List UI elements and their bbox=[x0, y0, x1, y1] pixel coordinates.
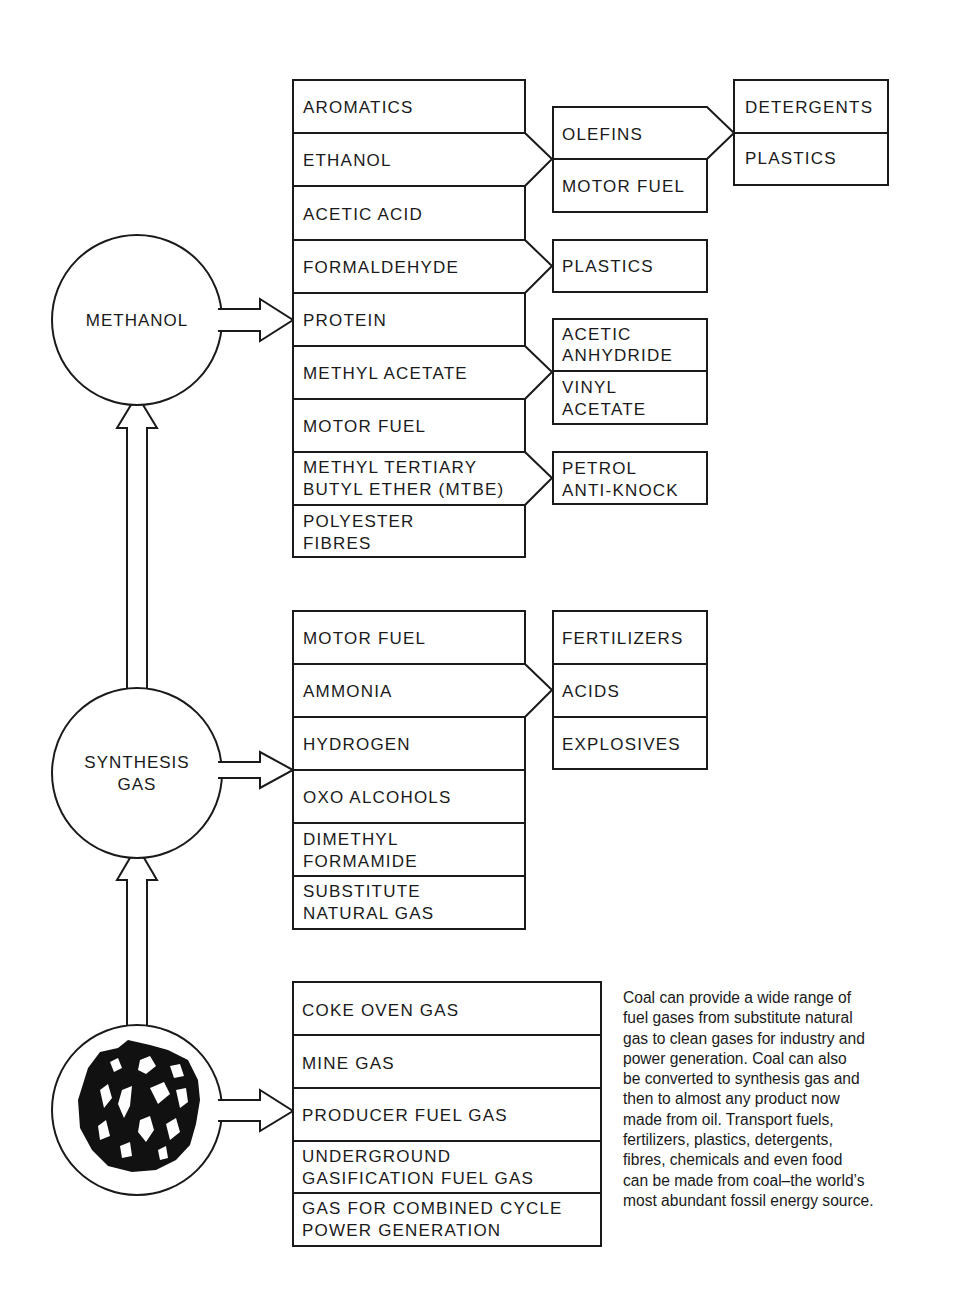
derivative-acids: ACIDS bbox=[562, 682, 620, 701]
methanol-products-list: AROMATICS ETHANOL ACETIC ACID FORMALDEHY… bbox=[293, 80, 552, 557]
olefins-derivatives: DETERGENTS PLASTICS bbox=[734, 80, 888, 185]
coal-lump-icon bbox=[78, 1040, 200, 1172]
arrow-synthesis-to-methanol-icon bbox=[117, 395, 157, 690]
description-line: fertilizers, plastics, detergents, bbox=[623, 1130, 943, 1150]
synthesis-gas-label-line2: GAS bbox=[118, 775, 157, 794]
derivative-vinyl-acetate-line1: VINYL bbox=[562, 378, 617, 397]
coal-gas-underground-line2: GASIFICATION FUEL GAS bbox=[302, 1169, 534, 1188]
methanol-product-acetic-acid: ACETIC ACID bbox=[303, 205, 423, 224]
arrow-synthesis-to-products-icon bbox=[218, 752, 293, 788]
methanol-product-aromatics: AROMATICS bbox=[303, 98, 414, 117]
synthesis-gas-label-line1: SYNTHESIS bbox=[84, 753, 189, 772]
derivative-acetic-anhydride-line1: ACETIC bbox=[562, 325, 632, 344]
synthesis-product-motor-fuel: MOTOR FUEL bbox=[303, 629, 426, 648]
derivative-detergents: DETERGENTS bbox=[745, 98, 873, 117]
derivative-vinyl-acetate-line2: ACETATE bbox=[562, 400, 646, 419]
arrow-methanol-to-products-icon bbox=[218, 299, 293, 341]
derivative-acetic-anhydride-line2: ANHYDRIDE bbox=[562, 346, 673, 365]
synthesis-product-hydrogen: HYDROGEN bbox=[303, 735, 411, 754]
synthesis-product-sng-line1: SUBSTITUTE bbox=[303, 882, 421, 901]
coal-gas-combined-cycle-line2: POWER GENERATION bbox=[302, 1221, 501, 1240]
synthesis-products-list: MOTOR FUEL AMMONIA HYDROGEN OXO ALCOHOLS… bbox=[293, 611, 552, 929]
derivative-motor-fuel: MOTOR FUEL bbox=[562, 177, 685, 196]
coal-gas-mine: MINE GAS bbox=[302, 1054, 395, 1073]
synthesis-gas-node: SYNTHESIS GAS bbox=[52, 688, 222, 858]
description-line: then to almost any product now bbox=[623, 1089, 943, 1109]
description-line: made from oil. Transport fuels, bbox=[623, 1110, 943, 1130]
arrow-coal-to-synthesis-icon bbox=[117, 846, 157, 1035]
derivative-plastics-formaldehyde: PLASTICS bbox=[562, 257, 654, 276]
derivative-plastics-olefins: PLASTICS bbox=[745, 149, 837, 168]
derivative-fertilizers: FERTILIZERS bbox=[562, 629, 684, 648]
methanol-product-formaldehyde: FORMALDEHYDE bbox=[303, 258, 459, 277]
synthesis-product-ammonia: AMMONIA bbox=[303, 682, 393, 701]
synthesis-product-dmf-line2: FORMAMIDE bbox=[303, 852, 418, 871]
methanol-product-mtbe-line1: METHYL TERTIARY bbox=[303, 458, 477, 477]
description-line: Coal can provide a wide range of bbox=[623, 988, 943, 1008]
methanol-product-ethanol: ETHANOL bbox=[303, 151, 392, 170]
coal-gas-coke-oven: COKE OVEN GAS bbox=[302, 1001, 459, 1020]
mtbe-derivatives: PETROL ANTI-KNOCK bbox=[553, 452, 707, 504]
description-line: fibres, chemicals and even food bbox=[623, 1150, 943, 1170]
synthesis-product-oxo-alcohols: OXO ALCOHOLS bbox=[303, 788, 452, 807]
derivative-olefins: OLEFINS bbox=[562, 125, 643, 144]
methanol-product-polyester-line2: FIBRES bbox=[303, 534, 372, 553]
coal-gas-combined-cycle-line1: GAS FOR COMBINED CYCLE bbox=[302, 1199, 563, 1218]
methanol-product-mtbe-line2: BUTYL ETHER (MTBE) bbox=[303, 480, 504, 499]
formaldehyde-derivatives: PLASTICS bbox=[553, 240, 707, 292]
ammonia-derivatives: FERTILIZERS ACIDS EXPLOSIVES bbox=[553, 611, 707, 769]
description-line: most abundant fossil energy source. bbox=[623, 1191, 943, 1211]
methanol-product-polyester-line1: POLYESTER bbox=[303, 512, 415, 531]
synthesis-product-dmf-line1: DIMETHYL bbox=[303, 830, 399, 849]
methanol-product-protein: PROTEIN bbox=[303, 311, 387, 330]
description-line: be converted to synthesis gas and bbox=[623, 1069, 943, 1089]
methyl-acetate-derivatives: ACETIC ANHYDRIDE VINYL ACETATE bbox=[553, 319, 707, 424]
derivative-petrol-line1: PETROL bbox=[562, 459, 637, 478]
coal-gas-producer-fuel: PRODUCER FUEL GAS bbox=[302, 1106, 508, 1125]
coal-gases-list: COKE OVEN GAS MINE GAS PRODUCER FUEL GAS… bbox=[293, 982, 601, 1246]
methanol-product-motor-fuel: MOTOR FUEL bbox=[303, 417, 426, 436]
coal-gas-underground-line1: UNDERGROUND bbox=[302, 1147, 451, 1166]
ethanol-derivatives: OLEFINS MOTOR FUEL bbox=[553, 107, 734, 212]
methanol-label: METHANOL bbox=[86, 311, 188, 330]
description-line: gas to clean gases for industry and bbox=[623, 1029, 943, 1049]
arrow-coal-to-gases-icon bbox=[218, 1090, 293, 1131]
description-paragraph: Coal can provide a wide range of fuel ga… bbox=[623, 988, 943, 1211]
derivative-explosives: EXPLOSIVES bbox=[562, 735, 681, 754]
methanol-product-methyl-acetate: METHYL ACETATE bbox=[303, 364, 468, 383]
description-line: fuel gases from substitute natural bbox=[623, 1008, 943, 1028]
description-line: can be made from coal–the world’s bbox=[623, 1171, 943, 1191]
methanol-node: METHANOL bbox=[52, 235, 222, 405]
description-line: power generation. Coal can also bbox=[623, 1049, 943, 1069]
coal-node bbox=[52, 1025, 222, 1195]
synthesis-product-sng-line2: NATURAL GAS bbox=[303, 904, 434, 923]
derivative-petrol-line2: ANTI-KNOCK bbox=[562, 481, 679, 500]
